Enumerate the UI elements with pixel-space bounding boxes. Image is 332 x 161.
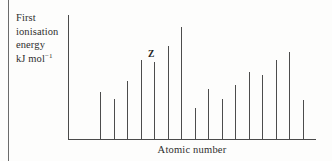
bar	[114, 99, 115, 139]
bar	[289, 52, 290, 139]
bar	[100, 92, 101, 139]
bar-annotation-z: Z	[148, 49, 154, 59]
bar	[262, 75, 263, 139]
bar	[154, 62, 155, 139]
bar	[141, 60, 142, 139]
x-axis-line	[68, 139, 316, 140]
y-axis-line	[68, 15, 69, 140]
bar	[235, 85, 236, 140]
figure-container: First ionisation energy kJ mol−1 Z Atomi…	[0, 0, 332, 161]
bar	[168, 46, 169, 139]
bar	[222, 99, 223, 139]
bar	[195, 108, 196, 140]
bar	[249, 72, 250, 139]
chart-plot-area: Z	[0, 0, 332, 161]
x-axis-label: Atomic number	[68, 144, 316, 155]
bar	[303, 100, 304, 139]
bar	[181, 27, 182, 140]
bar	[127, 81, 128, 139]
bar	[208, 89, 209, 139]
bar	[276, 60, 277, 139]
